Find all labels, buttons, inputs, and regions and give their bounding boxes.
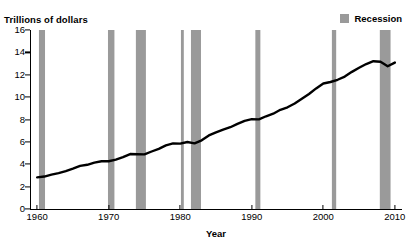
y-tick-label: 16 — [14, 25, 25, 35]
x-tick-mark — [180, 205, 181, 209]
x-tick-label: 1980 — [170, 212, 191, 222]
y-axis-line — [30, 30, 31, 210]
y-tick-mark — [25, 164, 30, 165]
x-tick-mark — [108, 205, 109, 209]
x-tick-label: 2000 — [313, 212, 334, 222]
x-tick-label: 1970 — [98, 212, 119, 222]
x-tick-mark — [323, 205, 324, 209]
recession-band — [108, 30, 114, 209]
plot-area — [30, 30, 402, 209]
y-tick-mark — [25, 119, 30, 120]
gdp-line-series — [37, 61, 395, 177]
x-tick-mark — [394, 205, 395, 209]
chart-legend: Recession — [340, 13, 402, 24]
recession-swatch-icon — [340, 14, 349, 23]
y-axis-ticks: 0246810121416 — [0, 0, 25, 246]
chart-figure: Trillions of dollars Recession 024681012… — [0, 0, 407, 246]
plot-svg — [30, 30, 402, 209]
recession-bands — [39, 30, 391, 209]
x-tick-label: 2010 — [384, 212, 405, 222]
y-tick-mark — [25, 186, 30, 187]
recession-band — [181, 30, 184, 209]
y-tick-mark — [25, 208, 30, 209]
recession-band — [380, 30, 391, 209]
y-tick-mark — [25, 29, 30, 30]
y-tick-mark — [25, 74, 30, 75]
x-tick-mark — [251, 205, 252, 209]
x-axis-title: Year — [206, 228, 226, 239]
y-tick-mark — [25, 52, 30, 53]
y-tick-label: 12 — [14, 70, 25, 80]
y-tick-mark — [25, 141, 30, 142]
recession-band — [136, 30, 146, 209]
y-tick-label: 14 — [14, 48, 25, 58]
y-tick-mark — [25, 97, 30, 98]
legend-item-recession: Recession — [354, 13, 402, 24]
recession-band — [191, 30, 201, 209]
x-axis-line — [30, 209, 402, 210]
y-tick-label: 10 — [14, 92, 25, 102]
x-tick-mark — [37, 205, 38, 209]
x-tick-label: 1990 — [241, 212, 262, 222]
recession-band — [332, 30, 336, 209]
x-tick-label: 1960 — [27, 212, 48, 222]
recession-band — [39, 30, 45, 209]
